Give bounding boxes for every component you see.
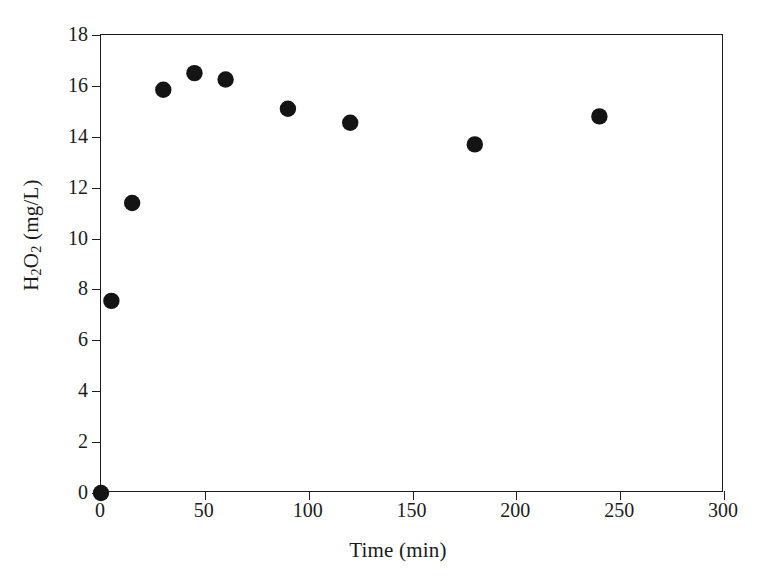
x-tick-label-250: 250 xyxy=(579,500,659,520)
data-point xyxy=(467,136,483,152)
data-point xyxy=(103,293,119,309)
data-point xyxy=(155,82,171,98)
x-axis-title-text: Time (min) xyxy=(349,538,446,563)
x-tick-label-300: 300 xyxy=(683,500,763,520)
scatter-chart-figure: 024681012141618 050100150200250300 H2O2 … xyxy=(0,0,778,588)
data-point xyxy=(342,115,358,131)
x-axis-title: Time (min) xyxy=(0,538,778,563)
y-tick-12 xyxy=(92,188,101,189)
y-tick-2 xyxy=(92,442,101,443)
data-point xyxy=(186,65,202,81)
data-point xyxy=(124,195,140,211)
data-points-layer xyxy=(101,35,724,493)
y-tick-label-0: 0 xyxy=(28,482,88,502)
y-tick-14 xyxy=(92,137,101,138)
data-point xyxy=(591,108,607,124)
y-tick-4 xyxy=(92,391,101,392)
x-tick-label-200: 200 xyxy=(475,500,555,520)
x-tick-label-0: 0 xyxy=(60,500,140,520)
data-point xyxy=(217,71,233,87)
plot-area xyxy=(100,34,723,492)
data-point xyxy=(93,485,109,501)
x-tick-300 xyxy=(724,491,725,500)
y-tick-10 xyxy=(92,239,101,240)
data-point xyxy=(280,101,296,117)
y-tick-16 xyxy=(92,86,101,87)
x-tick-label-150: 150 xyxy=(372,500,452,520)
y-axis-title: H2O2 (mg/L) xyxy=(19,35,45,435)
y-tick-8 xyxy=(92,289,101,290)
y-axis-title-text: H2O2 (mg/L) xyxy=(19,179,43,291)
x-tick-label-50: 50 xyxy=(164,500,244,520)
y-tick-18 xyxy=(92,35,101,36)
y-tick-6 xyxy=(92,340,101,341)
x-tick-label-100: 100 xyxy=(268,500,348,520)
